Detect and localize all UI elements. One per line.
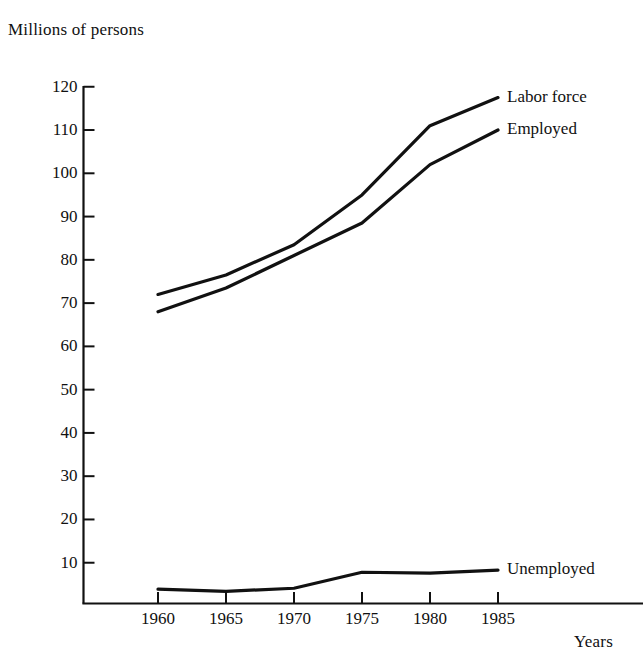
y-axis-tick-label: 10 <box>32 553 78 573</box>
y-axis-tick-label: 20 <box>32 509 78 529</box>
axis-lines <box>82 86 643 604</box>
y-axis-tick-label: 60 <box>32 336 78 356</box>
x-axis-tick-label: 1985 <box>468 609 528 629</box>
x-axis-tick-label: 1970 <box>264 609 324 629</box>
series-label-labor-force: Labor force <box>507 87 587 107</box>
y-axis-tick-label: 50 <box>32 380 78 400</box>
series-line <box>158 570 498 591</box>
x-axis-tick-label: 1980 <box>400 609 460 629</box>
y-axis-ticks <box>84 87 95 563</box>
series-label-unemployed: Unemployed <box>507 559 595 579</box>
data-series-lines <box>158 98 498 592</box>
y-axis-tick-label: 30 <box>32 466 78 486</box>
series-label-employed: Employed <box>507 119 577 139</box>
y-axis-tick-label: 120 <box>32 77 78 97</box>
series-line <box>158 98 498 295</box>
y-axis-tick-label: 110 <box>32 120 78 140</box>
x-axis-tick-label: 1965 <box>196 609 256 629</box>
y-axis-tick-label: 80 <box>32 250 78 270</box>
x-axis-ticks <box>158 592 498 604</box>
y-axis-tick-label: 90 <box>32 207 78 227</box>
x-axis-tick-label: 1960 <box>128 609 188 629</box>
chart-container: Millions of persons Years 10203040506070… <box>0 0 643 660</box>
y-axis-tick-label: 40 <box>32 423 78 443</box>
y-axis-tick-label: 70 <box>32 293 78 313</box>
y-axis-tick-label: 100 <box>32 163 78 183</box>
x-axis-tick-label: 1975 <box>332 609 392 629</box>
